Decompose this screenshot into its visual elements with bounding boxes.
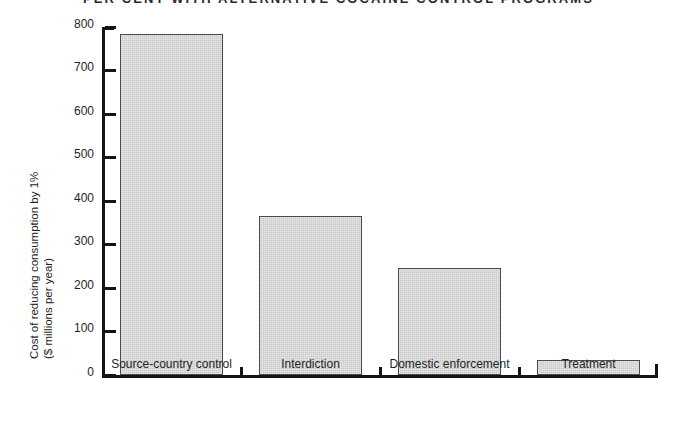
chart-title: PER CENT WITH ALTERNATIVE COCAINE CONTRO… [0, 0, 677, 6]
y-axis-line [102, 27, 105, 378]
y-axis-title-line-1: Cost of reducing consumption by 1% [28, 172, 40, 359]
y-tick-500: 500 [102, 156, 116, 159]
y-tick-mark [105, 243, 116, 246]
x-category-label-0: Source-country control [102, 357, 241, 371]
x-category-label-2: Domestic enforcement [380, 357, 519, 371]
y-tick-label: 600 [74, 105, 94, 117]
y-tick-mark [105, 156, 116, 159]
y-tick-mark [105, 330, 116, 333]
x-category-label-1: Interdiction [241, 357, 380, 371]
x-axis-line [102, 375, 658, 378]
bar-1 [259, 216, 362, 375]
y-tick-100: 100 [102, 330, 116, 333]
y-tick-label: 400 [74, 192, 94, 204]
plot-area: 0100200300400500600700800 [102, 27, 658, 378]
y-tick-mark [105, 200, 116, 203]
y-tick-800: 800 [102, 26, 116, 29]
bar-0 [120, 34, 223, 375]
y-tick-600: 600 [102, 113, 116, 116]
y-tick-mark [105, 374, 116, 377]
y-tick-label: 300 [74, 235, 94, 247]
y-tick-mark [105, 287, 116, 290]
y-tick-label: 0 [87, 366, 94, 378]
y-tick-700: 700 [102, 69, 116, 72]
y-axis-title: Cost of reducing consumption by 1% ($ mi… [14, 27, 50, 377]
x-category-label-3: Treatment [519, 357, 658, 371]
bar-chart-figure: PER CENT WITH ALTERNATIVE COCAINE CONTRO… [0, 0, 677, 425]
y-tick-200: 200 [102, 287, 116, 290]
y-tick-label: 700 [74, 61, 94, 73]
y-axis-title-line-2: ($ millions per year) [42, 258, 54, 359]
y-tick-label: 200 [74, 279, 94, 291]
y-tick-label: 100 [74, 322, 94, 334]
y-tick-300: 300 [102, 243, 116, 246]
y-tick-label: 800 [74, 18, 94, 30]
y-tick-mark [105, 69, 116, 72]
y-tick-label: 500 [74, 148, 94, 160]
y-tick-mark [105, 26, 116, 29]
y-tick-mark [105, 113, 116, 116]
y-tick-400: 400 [102, 200, 116, 203]
y-tick-0: 0 [102, 374, 116, 377]
